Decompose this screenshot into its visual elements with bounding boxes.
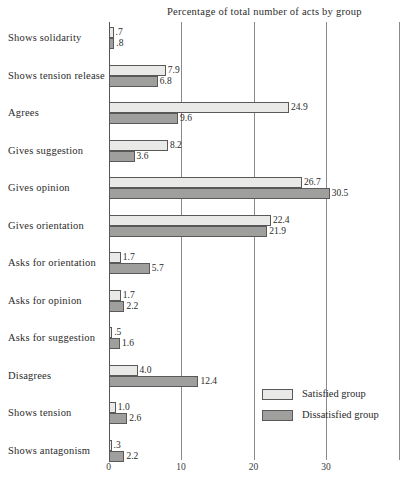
plot-area: 0102030Shows solidarity.7.8Shows tension… [0,0,405,479]
bar-satisfied [109,27,114,38]
category-label: Agrees [8,107,39,118]
x-tick-label: 30 [321,462,331,472]
bar-value-label: 9.6 [180,113,192,123]
bar-value-label: .7 [116,27,123,37]
bar-value-label: 22.4 [273,215,290,225]
chart-row: Shows tension release7.96.8 [0,65,405,89]
bar-value-label: 26.7 [304,177,321,187]
bar-satisfied [109,102,290,113]
bar-dissatisfied [109,38,115,49]
bar-dissatisfied [109,113,179,124]
bar-value-label: .8 [116,38,123,48]
category-label: Disagrees [8,370,51,381]
bar-dissatisfied [109,451,125,462]
bar-value-label: 1.7 [123,252,135,262]
bar-dissatisfied [109,376,199,387]
bar-value-label: 3.6 [137,151,149,161]
category-label: Gives orientation [8,220,84,231]
bar-satisfied [109,215,271,226]
chart-row: Gives suggestion8.23.6 [0,140,405,164]
bar-value-label: 2.6 [129,413,141,423]
bar-value-label: 21.9 [269,226,286,236]
chart-row: Gives orientation22.421.9 [0,215,405,239]
bar-value-label: 6.8 [160,76,172,86]
category-label: Asks for orientation [8,257,96,268]
bar-dissatisfied [109,151,135,162]
chart-row: Gives opinion26.730.5 [0,177,405,201]
bar-dissatisfied [109,301,125,312]
bar-value-label: 1.6 [122,338,134,348]
x-tick-label: 20 [249,462,259,472]
bar-dissatisfied [109,263,150,274]
bar-satisfied [109,365,138,376]
category-label: Asks for suggestion [8,332,95,343]
bar-dissatisfied [109,188,330,199]
bar-dissatisfied [109,413,128,424]
bar-satisfied [109,140,168,151]
bar-satisfied [109,440,112,451]
bar-value-label: 2.2 [126,301,138,311]
category-label: Shows solidarity [8,32,82,43]
bar-satisfied [109,290,121,301]
chart-row: Disagrees4.012.4 [0,365,405,389]
chart-row: Agrees24.99.6 [0,102,405,126]
bar-value-label: .5 [114,327,121,337]
bar-dissatisfied [109,226,268,237]
chart-row: Asks for suggestion.51.6 [0,327,405,351]
legend-label: Dissatisfied group [302,409,379,420]
bar-value-label: 8.2 [170,140,182,150]
bar-value-label: 12.4 [200,376,217,386]
x-tick-label: 0 [106,462,111,472]
legend-label: Satisfied group [302,388,366,399]
bar-value-label: 5.7 [152,263,164,273]
bar-satisfied [109,252,121,263]
category-label: Asks for opinion [8,295,82,306]
chart-row: Shows antagonism.32.2 [0,440,405,464]
bar-value-label: .3 [114,440,121,450]
chart-row: Shows solidarity.7.8 [0,27,405,51]
legend-swatch-dissatisfied [262,410,293,421]
bar-dissatisfied [109,76,158,87]
bar-satisfied [109,402,116,413]
x-tick-label: 10 [176,462,186,472]
bar-value-label: 30.5 [332,188,349,198]
bar-dissatisfied [109,338,121,349]
chart-row: Asks for opinion1.72.2 [0,290,405,314]
bar-satisfied [109,327,113,338]
category-label: Shows antagonism [8,445,90,456]
bar-satisfied [109,65,166,76]
category-label: Gives suggestion [8,145,83,156]
category-label: Shows tension release [8,70,105,81]
bar-value-label: 2.2 [126,451,138,461]
bar-satisfied [109,177,303,188]
bar-value-label: 4.0 [140,365,152,375]
legend-swatch-satisfied [262,389,293,400]
chart-row: Asks for orientation1.75.7 [0,252,405,276]
bar-value-label: 1.0 [118,402,130,412]
bar-chart-figure: Percentage of total number of acts by gr… [0,0,405,479]
category-label: Shows tension [8,407,72,418]
bar-value-label: 24.9 [291,102,308,112]
bar-value-label: 1.7 [123,290,135,300]
category-label: Gives opinion [8,182,70,193]
bar-value-label: 7.9 [168,65,180,75]
